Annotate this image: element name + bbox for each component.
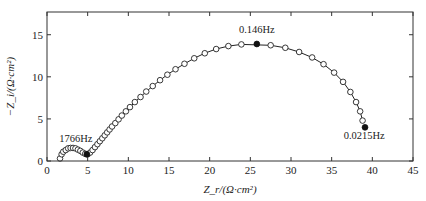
marked-point: [84, 151, 90, 157]
marked-point: [254, 41, 260, 47]
data-point: [360, 118, 366, 124]
x-tick-label: 35: [326, 164, 338, 176]
data-point: [143, 89, 149, 95]
data-point: [182, 61, 188, 67]
data-point: [165, 72, 171, 78]
data-point: [268, 42, 274, 48]
data-point: [309, 55, 315, 61]
data-point: [353, 99, 359, 105]
data-point: [202, 50, 208, 56]
x-tick-label: 20: [204, 164, 216, 176]
frequency-annotation: 0.146Hz: [239, 24, 275, 35]
y-tick-label: 15: [32, 29, 44, 41]
data-point: [321, 61, 327, 67]
data-point: [213, 46, 219, 52]
data-point: [132, 99, 138, 105]
y-axis-label: −Z_i/(Ω·cm²): [4, 57, 17, 117]
x-tick-label: 15: [164, 164, 176, 176]
y-tick-label: 0: [38, 155, 44, 167]
fit-curve: [60, 44, 363, 158]
x-tick-label: 0: [44, 164, 50, 176]
x-tick-label: 45: [408, 164, 420, 176]
data-point: [157, 77, 163, 83]
x-tick-label: 5: [85, 164, 91, 176]
x-axis-label: Z_r/(Ω·cm²): [203, 183, 256, 196]
data-point: [191, 55, 197, 61]
data-point: [340, 79, 346, 85]
data-point: [226, 43, 232, 49]
data-point: [348, 89, 354, 95]
x-tick-label: 40: [367, 164, 379, 176]
data-point: [127, 104, 133, 110]
frequency-annotation: 0.0215Hz: [344, 130, 385, 141]
y-tick-label: 10: [32, 71, 44, 83]
data-point: [296, 49, 302, 55]
data-point: [138, 94, 144, 100]
data-point: [283, 45, 289, 51]
nyquist-chart: 051015202530354045051015 Z_r/(Ω·cm²)−Z_i…: [0, 0, 426, 201]
data-point: [331, 70, 337, 76]
data-point: [239, 42, 245, 48]
y-tick-label: 5: [38, 113, 44, 125]
plot-area: [57, 41, 368, 161]
x-tick-label: 25: [245, 164, 257, 176]
data-point: [150, 83, 156, 89]
frequency-annotation: 1766Hz: [59, 133, 93, 144]
x-tick-label: 10: [123, 164, 135, 176]
data-point: [173, 66, 179, 72]
x-tick-label: 30: [286, 164, 298, 176]
data-point: [357, 109, 363, 115]
